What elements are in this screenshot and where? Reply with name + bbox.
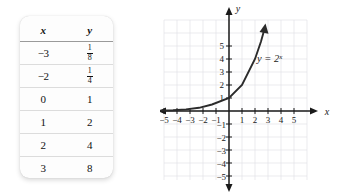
column-header-y: y bbox=[67, 23, 114, 42]
exponential-graph-figure: −5 −4 −3 −2 −1 1 2 3 4 5 1 2 3 4 5 −1 −2… bbox=[160, 0, 345, 194]
cell-x: −2 bbox=[20, 65, 67, 88]
fraction: 1 8 bbox=[87, 44, 93, 62]
table-row: 2 4 bbox=[20, 134, 113, 157]
y-tick-label: 5 bbox=[220, 41, 225, 51]
x-tick-label: −5 bbox=[160, 115, 169, 125]
table-body: −3 1 8 −2 1 4 0 1 bbox=[20, 42, 113, 180]
x-tick-label: 2 bbox=[253, 115, 258, 125]
x-tick-label: −3 bbox=[185, 115, 195, 125]
cell-x: 2 bbox=[20, 134, 67, 157]
y-tick-label: −5 bbox=[216, 172, 226, 182]
x-tick-label: 4 bbox=[279, 115, 284, 125]
graph-svg: −5 −4 −3 −2 −1 1 2 3 4 5 1 2 3 4 5 −1 −2… bbox=[160, 0, 345, 194]
equation-label: y = 2x bbox=[256, 53, 283, 65]
y-axis-arrow-down bbox=[226, 184, 233, 192]
x-tick-label: −2 bbox=[198, 115, 208, 125]
y-tick-label: −3 bbox=[216, 146, 226, 156]
x-tick-label: −4 bbox=[172, 115, 182, 125]
x-axis-arrow-right bbox=[310, 108, 318, 115]
x-tick-labels-positive: 1 2 3 4 5 bbox=[240, 115, 297, 125]
value-table-card: x y −3 1 8 −2 1 4 bbox=[20, 16, 113, 178]
y-tick-labels-positive: 1 2 3 4 5 bbox=[220, 41, 225, 103]
y-tick-label: −1 bbox=[216, 120, 226, 130]
cell-y: 1 4 bbox=[67, 65, 114, 88]
table-row: 1 2 bbox=[20, 111, 113, 134]
y-tick-label: 3 bbox=[220, 67, 225, 77]
exponential-curve bbox=[160, 33, 264, 111]
grid-lines bbox=[164, 20, 307, 180]
cell-y: 8 bbox=[67, 157, 114, 180]
cell-x: −3 bbox=[20, 42, 67, 65]
x-tick-label: 3 bbox=[266, 115, 271, 125]
table-row: 0 1 bbox=[20, 88, 113, 111]
cell-y: 2 bbox=[67, 111, 114, 134]
x-tick-label: 1 bbox=[240, 115, 245, 125]
x-axis-label: x bbox=[324, 106, 330, 117]
column-header-x: x bbox=[20, 23, 67, 42]
x-tick-label: 5 bbox=[292, 115, 297, 125]
table-row: 3 8 bbox=[20, 157, 113, 180]
cell-x: 0 bbox=[20, 88, 67, 111]
curve-arrow-head bbox=[260, 24, 269, 34]
y-axis-arrow-up bbox=[226, 7, 233, 15]
fraction: 1 4 bbox=[87, 67, 93, 85]
table-row: −2 1 4 bbox=[20, 65, 113, 88]
value-table: x y −3 1 8 −2 1 4 bbox=[20, 23, 113, 179]
cell-x: 3 bbox=[20, 157, 67, 180]
table-header-row: x y bbox=[20, 23, 113, 42]
cell-y: 1 bbox=[67, 88, 114, 111]
fraction-denominator: 4 bbox=[87, 77, 93, 85]
x-tick-labels-negative: −5 −4 −3 −2 −1 bbox=[160, 115, 221, 125]
table-row: −3 1 8 bbox=[20, 42, 113, 65]
fraction-denominator: 8 bbox=[87, 54, 93, 62]
y-tick-label: 2 bbox=[220, 80, 225, 90]
cell-y: 4 bbox=[67, 134, 114, 157]
y-tick-label: 4 bbox=[220, 54, 225, 64]
y-tick-label: −4 bbox=[216, 159, 226, 169]
table-header: x y bbox=[20, 23, 113, 42]
y-axis-label: y bbox=[235, 3, 241, 14]
y-tick-labels-negative: −1 −2 −3 −4 −5 bbox=[216, 120, 226, 182]
equation-base: y = 2 bbox=[256, 53, 280, 64]
cell-x: 1 bbox=[20, 111, 67, 134]
cell-y: 1 8 bbox=[67, 42, 114, 65]
y-tick-label: −2 bbox=[216, 133, 226, 143]
